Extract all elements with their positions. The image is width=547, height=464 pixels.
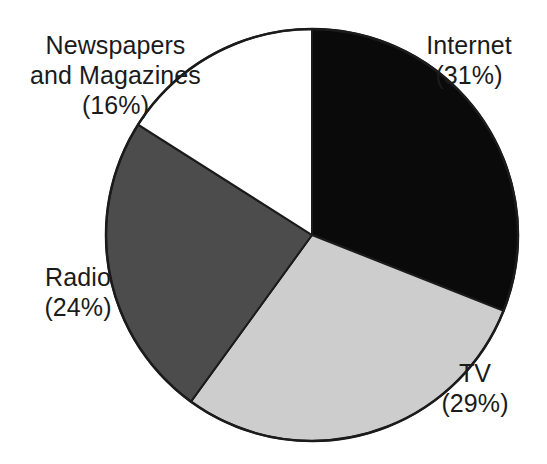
slice-label-newspapers-and-magazines: Newspapers and Magazines (16%) <box>18 30 213 120</box>
slice-label-internet: Internet (31%) <box>404 30 534 90</box>
slice-label-tv-name: TV <box>418 358 532 388</box>
slice-label-radio-name: Radio <box>22 262 134 292</box>
slice-label-newspapers-percent: (16%) <box>18 90 213 120</box>
slice-label-radio-percent: (24%) <box>22 292 134 322</box>
slice-label-tv: TV (29%) <box>418 358 532 418</box>
slice-label-radio: Radio (24%) <box>22 262 134 322</box>
slice-label-internet-name: Internet <box>404 30 534 60</box>
pie-chart-figure: Newspapers and Magazines (16%) Internet … <box>0 0 547 464</box>
slice-label-internet-percent: (31%) <box>404 60 534 90</box>
slice-label-tv-percent: (29%) <box>418 388 532 418</box>
slice-label-newspapers-line1: Newspapers <box>18 30 213 60</box>
slice-label-newspapers-line2: and Magazines <box>18 60 213 90</box>
